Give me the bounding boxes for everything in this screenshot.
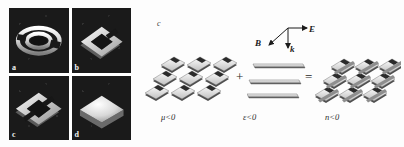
circular-split-ring-graphic <box>9 8 68 71</box>
micrograph-panel-d: d <box>72 76 132 141</box>
schematic-panel-letter: c <box>157 19 161 28</box>
micrograph-panel-c: c <box>9 76 69 141</box>
panel-letter-a: a <box>12 64 16 72</box>
panel-letter-c: c <box>12 131 16 139</box>
negative-permeability-array-graphic <box>143 48 239 110</box>
caption-negative-permittivity: ε<0 <box>243 112 256 122</box>
micrograph-panel-b: b <box>72 8 132 73</box>
metamaterial-figure: a <box>0 0 404 147</box>
metamaterial-schematic: c E B k <box>135 0 404 147</box>
plus-operator: + <box>236 70 243 83</box>
square-split-ring-graphic <box>72 8 131 71</box>
wire-rod <box>253 64 305 68</box>
E-axis-label: E <box>309 24 315 34</box>
wire-rod <box>249 80 301 84</box>
B-axis-arrow <box>269 28 288 45</box>
caption-negative-index: n<0 <box>325 112 339 122</box>
panel-letter-b: b <box>75 64 79 72</box>
caption-negative-permeability: μ<0 <box>161 112 175 122</box>
panel-letter-d: d <box>75 131 79 139</box>
micrograph-panel-grid: a <box>9 8 131 140</box>
wire-rod <box>247 94 299 98</box>
solid-square-plate-graphic <box>72 76 131 139</box>
double-square-split-ring-graphic <box>9 76 68 139</box>
B-axis-label: B <box>255 38 261 48</box>
negative-index-composite-graphic <box>313 46 401 110</box>
equals-operator: = <box>305 70 312 83</box>
micrograph-panel-a: a <box>9 8 69 73</box>
negative-permittivity-wires-graphic <box>247 52 309 108</box>
